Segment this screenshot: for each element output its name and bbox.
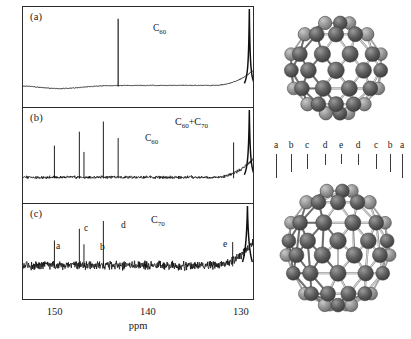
c70-tick-c-right — [376, 154, 377, 169]
c70-tick-d-left — [325, 154, 326, 165]
c70-label-a-right: a — [400, 140, 404, 150]
spectra-stack: (a) C60 (b) C60+C70 C60 (c) C — [22, 6, 254, 300]
c70-label-a-left: a — [274, 140, 278, 150]
c70-tick-d-right — [358, 154, 359, 165]
c70-tick-a-right — [402, 154, 403, 178]
c70-tick-b-left — [291, 154, 292, 172]
panel-b: (b) C60+C70 C60 — [22, 108, 254, 204]
molecule-column: a b c d e d c b a — [262, 0, 411, 339]
x-tick-150: 150 — [47, 306, 63, 317]
panel-c-tag: (c) — [30, 208, 42, 219]
c70-label-d-right: d — [356, 140, 361, 150]
x-axis-title: ppm — [129, 320, 148, 331]
x-tick-140: 140 — [140, 306, 156, 317]
panel-a-annotation-c60: C60 — [153, 23, 166, 35]
c70-tick-e — [341, 154, 342, 164]
panel-c: (c) C70 a c b d e — [22, 204, 254, 300]
c70-tick-a-left — [276, 154, 277, 178]
figure-root: (a) C60 (b) C60+C70 C60 (c) C — [0, 0, 411, 339]
panel-c-annotation-e: e — [223, 239, 227, 249]
c60-molecule-figure — [272, 4, 400, 132]
c70-structure-icon — [270, 178, 406, 318]
c70-molecule-figure — [270, 178, 406, 318]
panel-a-trace — [23, 7, 253, 107]
c70-label-c-left: c — [305, 140, 309, 150]
c70-label-d-left: d — [323, 140, 328, 150]
c70-tick-b-right — [390, 154, 391, 172]
c70-label-c-right: c — [374, 140, 378, 150]
c70-site-label-row: a b c d e d c b a — [270, 140, 403, 178]
c60-structure-icon — [272, 4, 400, 132]
c70-label-e: e — [339, 140, 343, 150]
panel-a: (a) C60 — [22, 6, 254, 108]
panel-c-annotation-d: d — [121, 220, 126, 230]
panel-c-trace — [23, 204, 253, 299]
panel-c-annotation-b: b — [100, 242, 105, 252]
panel-c-species-label: C70 — [151, 214, 165, 228]
panel-b-tag: (b) — [30, 112, 43, 123]
x-tick-130: 130 — [233, 306, 249, 317]
panel-c-annotation-a: a — [56, 241, 60, 251]
c70-tick-c-left — [307, 154, 308, 169]
panel-c-annotation-c: c — [84, 223, 88, 233]
panel-a-tag: (a) — [30, 11, 42, 22]
c70-label-b-left: b — [289, 140, 294, 150]
c70-label-b-right: b — [388, 140, 393, 150]
x-axis: 150 140 130 ppm — [22, 300, 254, 334]
panel-b-annotation-c60: C60 — [145, 133, 158, 145]
panel-b-species-label: C60+C70 — [175, 116, 208, 130]
panel-b-trace — [23, 108, 253, 203]
